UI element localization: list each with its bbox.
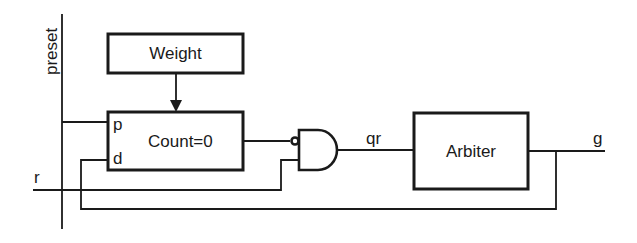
g-label: g — [593, 129, 602, 148]
port-p-label: p — [113, 115, 122, 134]
arbiter-label: Arbiter — [446, 142, 496, 161]
arrowhead-icon — [170, 100, 182, 112]
r-label: r — [34, 168, 40, 187]
qr-label: qr — [366, 129, 381, 148]
counter-label: Count=0 — [148, 132, 213, 151]
preset-label: preset — [42, 27, 61, 75]
inverter-bubble-icon — [292, 138, 299, 145]
and-gate — [299, 130, 337, 170]
port-d-label: d — [113, 149, 122, 168]
circuit-diagram: preset Weight p d Count=0 r qr Arbiter g — [0, 0, 637, 243]
weight-label: Weight — [149, 44, 202, 63]
